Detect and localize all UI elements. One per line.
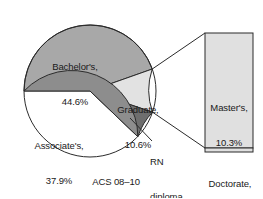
breakout-leader-line-top (152, 33, 205, 69)
slice-label-rn-diploma: RN diploma, 6.9% (150, 133, 198, 198)
slice-label-bachelors-name: Bachelor's, (32, 61, 118, 73)
chart-source-caption: ACS 08–10 (66, 176, 166, 188)
bar-label-masters-name: Master's, (205, 102, 253, 114)
bar-label-masters-value: 10.3% (205, 137, 253, 149)
slice-label-rn-diploma-name-2: diploma, (150, 191, 198, 199)
slice-label-rn-diploma-name-1: RN (150, 156, 198, 168)
pie-of-pie-figure: Bachelor's, 44.6% Associate's, 37.9% Gra… (0, 0, 263, 198)
bar-label-doctorate: Doctorate, 0.4% (200, 155, 260, 198)
bar-label-doctorate-name: Doctorate, (200, 178, 260, 190)
slice-label-associates-name: Associate's, (16, 140, 102, 152)
slice-label-graduate-name: Graduate, (104, 104, 172, 116)
